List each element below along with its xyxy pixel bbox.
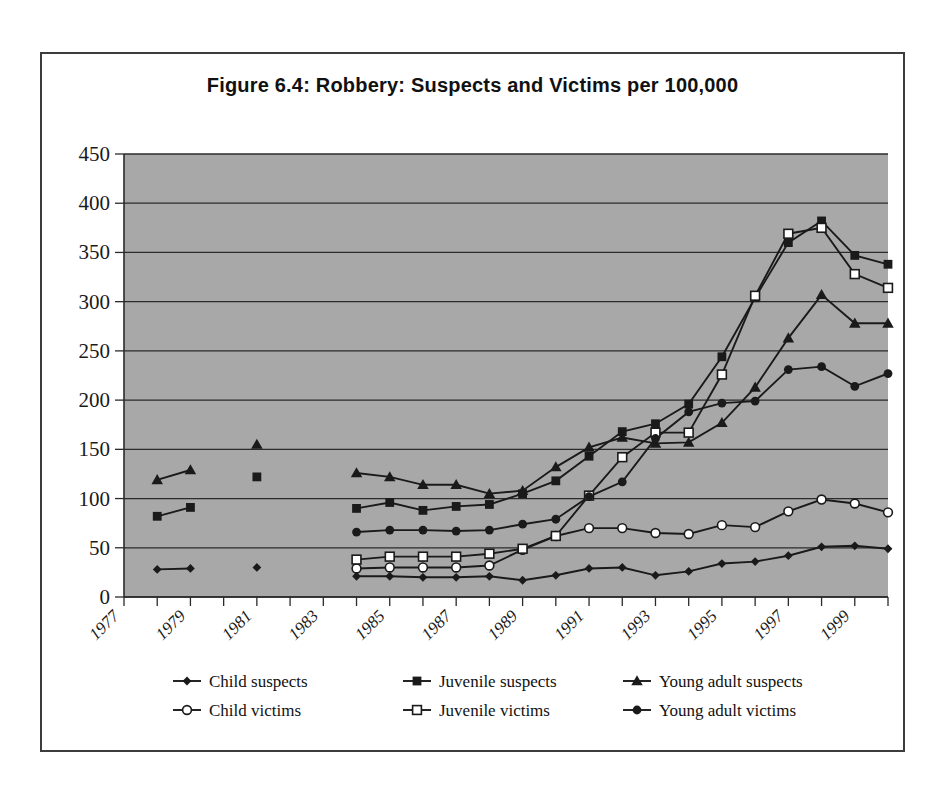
marker-square bbox=[352, 504, 361, 513]
marker-open-square bbox=[884, 283, 893, 292]
marker-square bbox=[153, 512, 162, 521]
x-tick-label: 1977 bbox=[85, 605, 124, 644]
x-tick-label: 1987 bbox=[418, 605, 457, 644]
marker-open-circle bbox=[850, 499, 859, 508]
marker-open-square bbox=[385, 552, 394, 561]
marker-circle bbox=[452, 527, 461, 536]
marker-open-square bbox=[784, 229, 793, 238]
marker-square bbox=[684, 400, 693, 409]
marker-circle bbox=[718, 399, 727, 408]
legend-entry-juvenile-victims[interactable]: Juvenile victims bbox=[403, 701, 550, 720]
series-line bbox=[157, 569, 190, 570]
x-tick-label: 1999 bbox=[816, 606, 854, 644]
marker-circle bbox=[651, 434, 660, 443]
marker-open-circle bbox=[452, 563, 461, 572]
marker-square bbox=[551, 476, 560, 485]
marker-square bbox=[850, 251, 859, 260]
y-tick-label: 300 bbox=[79, 290, 111, 314]
marker-circle bbox=[751, 397, 760, 406]
marker-square bbox=[718, 352, 727, 361]
marker-circle bbox=[850, 382, 859, 391]
x-tick-label: 1991 bbox=[550, 606, 587, 643]
marker-open-circle bbox=[784, 507, 793, 516]
marker-square bbox=[419, 506, 428, 515]
marker-circle bbox=[784, 365, 793, 374]
marker-circle bbox=[618, 477, 627, 486]
marker-open-square bbox=[684, 428, 693, 437]
marker-open-circle bbox=[651, 529, 660, 538]
marker-open-circle bbox=[618, 524, 627, 533]
marker-open-circle bbox=[585, 524, 594, 533]
marker-open-circle bbox=[817, 495, 826, 504]
marker-circle bbox=[884, 369, 893, 378]
marker-open-square bbox=[551, 532, 560, 541]
marker-open-square bbox=[485, 549, 494, 558]
marker-circle bbox=[518, 520, 527, 529]
marker-circle bbox=[485, 526, 494, 535]
x-tick-label: 1995 bbox=[683, 606, 720, 643]
y-tick-label: 150 bbox=[79, 437, 111, 461]
legend-label: Juvenile suspects bbox=[439, 672, 557, 691]
legend-label: Child victims bbox=[209, 701, 301, 720]
x-tick-label: 1981 bbox=[218, 606, 255, 643]
marker-open-circle bbox=[183, 706, 192, 715]
marker-circle bbox=[551, 515, 560, 524]
marker-open-square bbox=[518, 544, 527, 553]
marker-circle bbox=[352, 528, 361, 537]
x-tick-label: 1985 bbox=[351, 606, 388, 643]
figure-frame: Figure 6.4: Robbery: Suspects and Victim… bbox=[40, 52, 905, 752]
marker-circle bbox=[419, 526, 428, 535]
y-tick-label: 400 bbox=[79, 191, 111, 215]
marker-open-square bbox=[452, 552, 461, 561]
x-tick-label: 1997 bbox=[750, 605, 789, 644]
x-tick-label: 1979 bbox=[152, 606, 190, 644]
marker-open-square bbox=[618, 453, 627, 462]
legend-entry-child-suspects[interactable]: Child suspects bbox=[173, 672, 308, 691]
marker-square bbox=[252, 472, 261, 481]
marker-square bbox=[385, 498, 394, 507]
y-tick-label: 100 bbox=[79, 487, 111, 511]
x-tick-label: 1989 bbox=[484, 606, 522, 644]
marker-open-circle bbox=[884, 508, 893, 517]
marker-circle bbox=[585, 492, 594, 501]
marker-square bbox=[186, 503, 195, 512]
marker-square bbox=[585, 452, 594, 461]
legend-label: Young adult victims bbox=[659, 701, 796, 720]
marker-open-square bbox=[817, 223, 826, 232]
legend-entry-child-victims[interactable]: Child victims bbox=[173, 701, 301, 720]
marker-circle bbox=[385, 526, 394, 535]
marker-circle bbox=[633, 706, 642, 715]
marker-open-circle bbox=[485, 561, 494, 570]
marker-open-square bbox=[413, 706, 422, 715]
marker-open-circle bbox=[352, 564, 361, 573]
marker-open-circle bbox=[385, 563, 394, 572]
marker-square bbox=[413, 677, 422, 686]
chart-plot: 0501001502002503003504004501977197919811… bbox=[42, 54, 907, 754]
marker-open-square bbox=[419, 552, 428, 561]
marker-open-square bbox=[751, 291, 760, 300]
marker-open-circle bbox=[419, 563, 428, 572]
legend-label: Juvenile victims bbox=[439, 701, 550, 720]
y-tick-label: 0 bbox=[100, 585, 111, 609]
legend-label: Child suspects bbox=[209, 672, 308, 691]
legend-entry-young-adult-suspects[interactable]: Young adult suspects bbox=[623, 672, 803, 691]
legend-entry-juvenile-suspects[interactable]: Juvenile suspects bbox=[403, 672, 557, 691]
marker-diamond bbox=[183, 677, 192, 686]
marker-open-square bbox=[718, 370, 727, 379]
marker-open-square bbox=[352, 555, 361, 564]
y-tick-label: 450 bbox=[79, 142, 111, 166]
marker-open-circle bbox=[684, 530, 693, 539]
marker-square bbox=[452, 502, 461, 511]
marker-circle bbox=[817, 362, 826, 371]
y-tick-label: 200 bbox=[79, 388, 111, 412]
legend-label: Young adult suspects bbox=[659, 672, 803, 691]
x-tick-label: 1993 bbox=[617, 606, 654, 643]
legend-entry-young-adult-victims[interactable]: Young adult victims bbox=[623, 701, 796, 720]
x-tick-label: 1983 bbox=[285, 606, 322, 643]
marker-square bbox=[784, 238, 793, 247]
marker-circle bbox=[684, 408, 693, 417]
marker-square bbox=[651, 419, 660, 428]
marker-open-square bbox=[850, 270, 859, 279]
y-tick-label: 350 bbox=[79, 240, 111, 264]
y-tick-label: 250 bbox=[79, 339, 111, 363]
